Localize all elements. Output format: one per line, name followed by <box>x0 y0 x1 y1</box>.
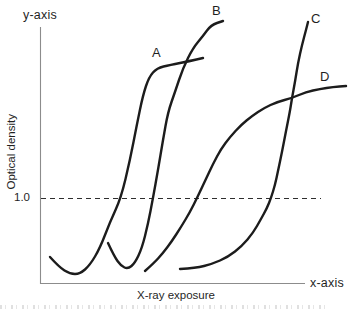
curve-label-b: B <box>212 4 221 17</box>
x-axis-end-label: x-axis <box>310 277 344 290</box>
y-axis-end-label: y-axis <box>23 9 57 22</box>
cropped-caption-artifact <box>0 305 330 309</box>
curve-A <box>50 58 203 274</box>
plot-canvas <box>0 0 349 309</box>
curve-label-d: D <box>320 70 329 83</box>
curve-label-c: C <box>311 12 320 25</box>
x-axis-title: X-ray exposure <box>137 290 215 302</box>
y-axis-title: Optical density <box>6 107 18 197</box>
curve-label-a: A <box>152 46 161 59</box>
hd-characteristic-curves-figure: y-axis x-axis Optical density X-ray expo… <box>0 0 349 309</box>
reference-value-label: 1.0 <box>7 192 30 204</box>
curve-B <box>108 21 223 268</box>
